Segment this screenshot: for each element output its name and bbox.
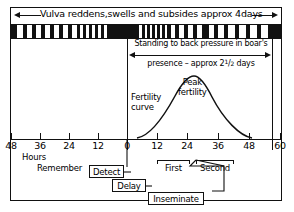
inseminate-box-label: Inseminate — [153, 194, 198, 204]
presence-prefix: presence – approx 2 — [147, 59, 224, 68]
barcode-bar-6 — [68, 25, 72, 38]
barcode-bar-26 — [246, 25, 250, 38]
axis-tick-6 — [187, 133, 188, 139]
barcode-bar-28 — [268, 25, 281, 38]
axis-tick-2 — [69, 133, 70, 139]
axis-tick-label-1: 36 — [34, 140, 46, 151]
sixty-hour-vertical-line — [272, 38, 273, 139]
arrow-right-head-icon — [272, 12, 278, 18]
arrow-left-shaft — [19, 15, 41, 16]
barcode-bar-7 — [77, 25, 80, 38]
axis-tick-5 — [157, 133, 158, 139]
oestrus-barcode-band — [11, 24, 281, 39]
barcode-bar-13 — [142, 25, 145, 38]
standing-arrow-shaft — [134, 55, 266, 56]
vulva-title-label: Vulva reddens,swells and subsides approx… — [40, 8, 254, 19]
barcode-bar-10 — [95, 25, 98, 38]
standing-arrow-right-head-icon — [265, 52, 271, 58]
zero-hour-vertical-line — [127, 38, 128, 139]
barcode-bar-14 — [147, 25, 150, 38]
fraction-numerator: 1 — [224, 58, 228, 65]
axis-tick-1 — [40, 133, 41, 139]
axis-unit-label: Hours — [22, 152, 46, 162]
axis-tick-label-5: 12 — [151, 140, 163, 151]
presence-duration-label: presence – approx 21/2 days — [131, 58, 271, 68]
detect-box-label: Detect — [93, 167, 120, 177]
vulva-span-arrow: Vulva reddens,swells and subsides approx… — [14, 9, 278, 23]
half-fraction: 1/2 — [224, 58, 234, 68]
axis-tick-3 — [98, 133, 99, 139]
first-service-label: First — [157, 163, 190, 173]
fertility-curve-label: Fertility curve — [131, 93, 161, 112]
barcode-bar-20 — [184, 25, 188, 38]
axis-tick-label-3: 12 — [92, 140, 104, 151]
axis-tick-label-6: 24 — [181, 140, 193, 151]
diagram-canvas: Vulva reddens,swells and subsides approx… — [0, 0, 294, 212]
barcode-bar-9 — [89, 25, 92, 38]
axis-tick-0 — [11, 133, 12, 139]
peak-fertility-label: Peak fertility — [178, 78, 207, 97]
axis-tick-label-7: 36 — [212, 140, 224, 151]
barcode-bar-27 — [257, 25, 261, 38]
axis-tick-9 — [280, 133, 281, 139]
barcode-bar-15 — [152, 25, 155, 38]
standing-pressure-label: Standing to back pressure in boar's — [131, 39, 271, 48]
remember-label: Remember — [37, 163, 82, 173]
fertility-curve-label-line2: curve — [131, 103, 161, 113]
axis-tick-8 — [249, 133, 250, 139]
barcode-bar-1 — [23, 25, 27, 38]
axis-tick-label-4: 0 — [124, 140, 130, 151]
barcode-bar-19 — [175, 25, 179, 38]
barcode-bar-16 — [157, 25, 160, 38]
detect-box[interactable]: Detect — [89, 165, 124, 178]
barcode-bar-21 — [193, 25, 197, 38]
barcode-bar-4 — [50, 25, 54, 38]
barcode-bar-25 — [235, 25, 239, 38]
barcode-bar-18 — [167, 25, 171, 38]
presence-suffix: days — [234, 59, 254, 68]
inseminate-box[interactable]: Inseminate — [148, 192, 204, 205]
barcode-bar-17 — [162, 25, 165, 38]
axis-tick-7 — [218, 133, 219, 139]
delay-box-label: Delay — [117, 181, 140, 191]
barcode-bar-5 — [59, 25, 63, 38]
axis-tick-label-0: 48 — [5, 140, 17, 151]
barcode-bar-8 — [83, 25, 86, 38]
second-service-label: Second — [196, 163, 234, 173]
barcode-bar-3 — [41, 25, 45, 38]
barcode-bar-23 — [214, 25, 218, 38]
axis-tick-4 — [127, 133, 128, 139]
peak-fertility-line2: fertility — [178, 88, 207, 98]
barcode-bar-12 — [107, 25, 139, 38]
axis-tick-label-9: 60 — [274, 140, 286, 151]
time-axis-line — [11, 139, 281, 140]
delay-box[interactable]: Delay — [112, 179, 146, 192]
barcode-bar-2 — [32, 25, 36, 38]
barcode-bar-22 — [202, 25, 209, 38]
axis-tick-label-8: 48 — [243, 140, 255, 151]
axis-tick-label-2: 24 — [63, 140, 75, 151]
barcode-bar-0 — [11, 25, 17, 38]
barcode-bar-11 — [101, 25, 104, 38]
barcode-bar-24 — [224, 25, 228, 38]
